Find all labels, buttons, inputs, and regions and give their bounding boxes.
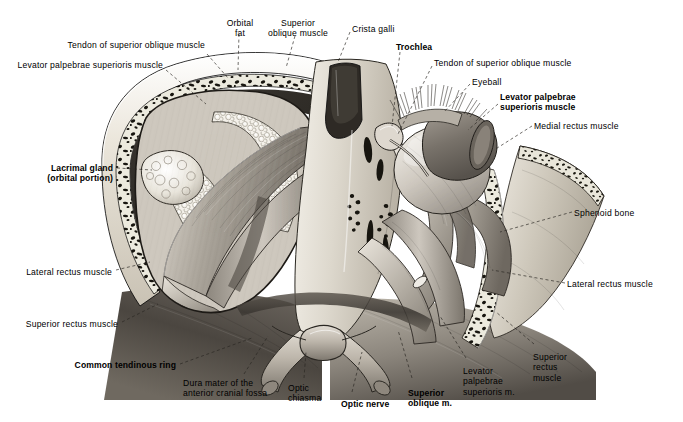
label-trochlea: Trochlea [396, 42, 432, 52]
label-orbital-fat: Orbital fat [227, 18, 254, 39]
label-medial-rectus-muscle: Medial rectus muscle [534, 121, 619, 131]
label-superior-rectus-right: Superior rectus muscle [533, 352, 567, 383]
label-dura-mater: Dura mater of the anterior cranial fossa [183, 378, 267, 399]
label-superior-oblique-muscle: Superior oblique muscle [268, 18, 328, 39]
label-sphenoid-bone: Sphenoid bone [574, 208, 634, 218]
label-levator-palpebrae-right: Levator palpebrae superioris muscle [500, 92, 576, 113]
label-optic-chiasma: Optic chiasma [288, 383, 321, 404]
anatomical-plate: Tendon of superior oblique muscleLevator… [0, 0, 683, 422]
label-crista-galli: Crista galli [352, 24, 395, 34]
label-lacrimal-gland: Lacrimal gland (orbital portion) [47, 163, 113, 184]
label-lateral-rectus-left: Lateral rectus muscle [26, 267, 112, 277]
label-tendon-superior-oblique-left: Tendon of superior oblique muscle [68, 40, 206, 50]
label-lateral-rectus-right: Lateral rectus muscle [567, 279, 653, 289]
label-levator-palpebrae-bottom: Levator palpebrae superioris m. [463, 366, 515, 397]
label-superior-rectus-left: Superior rectus muscle [26, 319, 118, 329]
label-superior-oblique-bottom: Superior oblique m. [408, 388, 452, 409]
label-common-tendinous-ring: Common tendinous ring [75, 360, 176, 370]
label-tendon-superior-oblique-right: Tendon of superior oblique muscle [434, 58, 572, 68]
label-levator-palpebrae-left: Levator palpebrae superioris muscle [17, 60, 163, 70]
label-optic-nerve: Optic nerve [341, 399, 389, 409]
label-eyeball: Eyeball [472, 77, 502, 87]
